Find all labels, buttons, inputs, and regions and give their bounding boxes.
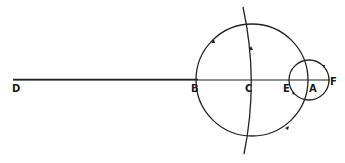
label-f: F xyxy=(330,76,337,87)
diagram-canvas: D B C E A F xyxy=(0,0,345,163)
label-b: B xyxy=(191,83,199,94)
label-d: D xyxy=(12,83,20,94)
label-a: A xyxy=(309,83,317,94)
arrow-icon xyxy=(285,126,289,130)
label-e: E xyxy=(283,83,290,94)
label-c: C xyxy=(245,83,252,94)
